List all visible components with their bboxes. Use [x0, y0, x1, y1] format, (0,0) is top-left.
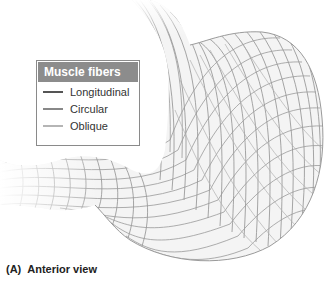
- caption-panel-letter: (A): [6, 263, 21, 275]
- muscle-fibers-legend: Muscle fibers Longitudinal Circular Obli…: [36, 60, 140, 146]
- oblique-line-swatch-icon: [43, 125, 63, 127]
- stomach-diagram: [0, 0, 333, 297]
- legend-item-circular: Circular: [37, 100, 139, 117]
- longitudinal-line-swatch-icon: [43, 91, 63, 93]
- legend-label: Oblique: [70, 120, 108, 132]
- legend-item-oblique: Oblique: [37, 117, 139, 134]
- legend-item-longitudinal: Longitudinal: [37, 83, 139, 100]
- legend-title: Muscle fibers: [38, 62, 138, 82]
- legend-label: Longitudinal: [70, 86, 129, 98]
- legend-label: Circular: [70, 103, 108, 115]
- stomach-mesh-illustration: [0, 0, 333, 297]
- figure-caption: (A)Anterior view: [6, 263, 97, 275]
- circular-line-swatch-icon: [43, 108, 63, 110]
- caption-text: Anterior view: [27, 263, 97, 275]
